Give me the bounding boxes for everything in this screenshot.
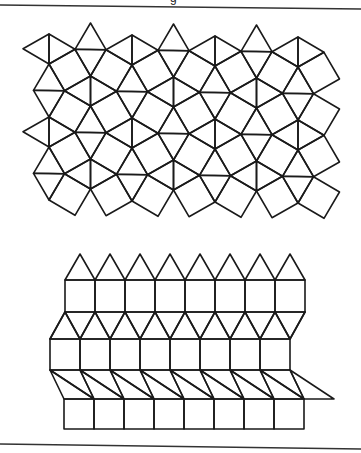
tile-triangle <box>158 107 189 134</box>
tile-square <box>155 280 185 312</box>
tile-square <box>260 339 290 370</box>
tile-square <box>80 339 110 370</box>
tile-triangle <box>200 175 231 202</box>
tile-square <box>132 133 174 174</box>
tile-square <box>257 135 299 177</box>
tile-square <box>154 399 184 429</box>
tile-square <box>174 134 216 176</box>
tile-square <box>245 280 275 312</box>
tile-square <box>275 280 305 312</box>
tile-square <box>174 51 216 93</box>
tile-square <box>215 280 245 312</box>
tile-triangle <box>158 24 189 51</box>
tile-triangle <box>75 132 106 159</box>
tile-triangle <box>125 312 155 339</box>
tiling-figure: g <box>0 0 361 453</box>
tile-square <box>132 92 174 134</box>
tile-square <box>257 52 299 94</box>
tile-triangle <box>80 312 110 339</box>
tile-triangle <box>91 76 117 106</box>
bottom-rule <box>0 444 361 449</box>
tile-square <box>215 176 257 218</box>
tile-square <box>49 91 91 133</box>
tile-square <box>174 92 216 133</box>
tile-square <box>125 280 155 312</box>
tile-triangle <box>215 254 245 280</box>
tile-triangle <box>241 134 272 161</box>
tile-triangle <box>200 92 231 119</box>
tile-square <box>200 339 230 370</box>
tile-triangle <box>34 147 65 174</box>
tile-triangle <box>200 312 230 339</box>
tile-square <box>49 174 91 216</box>
tile-triangle <box>65 159 91 189</box>
tile-triangle <box>174 160 200 190</box>
tile-square <box>124 399 154 429</box>
tile-square <box>298 135 340 176</box>
tile-triangle <box>215 312 245 339</box>
tile-square <box>184 399 214 429</box>
tile-triangle <box>132 35 158 65</box>
tile-square <box>91 174 133 215</box>
tile-triangle <box>260 312 290 339</box>
top-rule <box>0 5 361 9</box>
tile-triangle <box>257 161 283 191</box>
caption-fragment: g <box>170 0 177 5</box>
tile-square <box>50 339 80 370</box>
tile-square <box>215 134 257 175</box>
tile-square <box>132 50 174 91</box>
tile-triangle <box>75 49 106 76</box>
tile-square <box>174 175 216 216</box>
tile-triangle <box>49 34 75 64</box>
tile-triangle <box>257 78 283 108</box>
tile-triangle <box>283 93 314 120</box>
tile-triangle <box>241 25 272 52</box>
tile-triangle <box>298 37 324 67</box>
tile-triangle <box>125 254 155 280</box>
tile-square <box>215 93 257 135</box>
tile-square <box>257 176 299 217</box>
tile-triangle <box>75 106 106 133</box>
tile-triangle <box>148 160 174 190</box>
tile-square <box>49 49 91 90</box>
tile-square <box>132 175 174 217</box>
tile-triangle <box>158 50 189 77</box>
snub-square-tiling <box>23 23 340 218</box>
tile-triangle <box>148 77 174 107</box>
tile-triangle <box>49 117 75 147</box>
tile-square <box>91 133 133 175</box>
tile-triangle <box>95 254 125 280</box>
tile-square <box>244 399 274 429</box>
tile-square <box>95 280 125 312</box>
tile-triangle <box>185 254 215 280</box>
tile-triangle <box>117 65 148 92</box>
tile-triangle <box>200 66 231 93</box>
tile-triangle <box>65 312 95 339</box>
tile-square <box>110 339 140 370</box>
tile-square <box>185 280 215 312</box>
tile-triangle <box>275 312 305 339</box>
tile-triangle <box>230 312 260 339</box>
tile-square <box>94 399 124 429</box>
tile-square <box>298 52 340 93</box>
tile-triangle <box>34 173 65 200</box>
tile-square <box>140 339 170 370</box>
tile-square <box>91 50 133 92</box>
tile-square <box>214 399 244 429</box>
tile-triangle <box>170 312 200 339</box>
tile-square <box>298 177 340 219</box>
tile-triangle <box>65 254 95 280</box>
tile-triangle <box>23 34 49 64</box>
tile-triangle <box>110 312 140 339</box>
tile-triangle <box>245 312 275 339</box>
tile-triangle <box>117 91 148 118</box>
tile-triangle <box>189 36 215 66</box>
tile-triangle <box>50 312 80 339</box>
tiling-canvas <box>0 0 361 453</box>
tile-triangle <box>241 51 272 78</box>
tile-triangle <box>34 64 65 91</box>
tile-triangle <box>95 312 125 339</box>
tile-triangle <box>189 119 215 149</box>
tile-triangle <box>283 176 314 203</box>
tile-triangle <box>298 120 324 150</box>
